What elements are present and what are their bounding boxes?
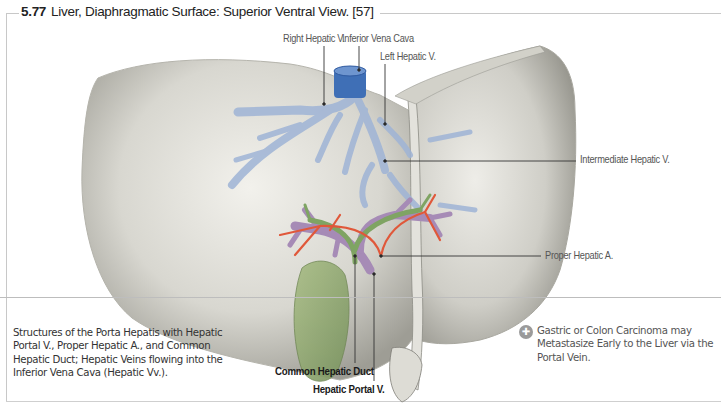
- figure-title-text: Liver, Diaphragmatic Surface: Superior V…: [51, 4, 374, 19]
- label-common-hepatic-duct: Common Hepatic Duct: [275, 365, 374, 377]
- label-hepatic-portal-v: Hepatic Portal V.: [313, 383, 385, 395]
- figure-caption: Structures of the Porta Hepatis with Hep…: [13, 326, 233, 380]
- leader-dot-intermediate-hepatic-v: [384, 160, 387, 163]
- leader-dot-proper-hepatic-a: [380, 255, 383, 258]
- gallbladder: [294, 261, 349, 381]
- figure-title: 5.77Liver, Diaphragmatic Surface: Superi…: [19, 4, 380, 19]
- inferior-vena-cava-stump: [334, 66, 366, 98]
- label-intermediate-hepatic-v: Intermediate Hepatic V.: [580, 153, 670, 165]
- leader-dot-right-hepatic-v: [323, 103, 326, 106]
- label-proper-hepatic-a: Proper Hepatic A.: [545, 249, 613, 261]
- leader-dot-left-hepatic-v: [384, 123, 387, 126]
- label-inferior-vena-cava: Inferior Vena Cava: [342, 32, 414, 44]
- clinical-note: Gastric or Colon Carcinoma may Metastasi…: [537, 324, 717, 364]
- label-left-hepatic-v: Left Hepatic V.: [380, 50, 436, 62]
- leader-dot-common-hepatic-duct: [354, 255, 357, 258]
- clinical-note-icon: ✚: [519, 325, 533, 339]
- leader-dot-inferior-vena-cava: [358, 69, 361, 72]
- section-separator: [0, 297, 721, 298]
- label-right-hepatic-v: Right Hepatic V.: [283, 32, 345, 44]
- leader-dot-hepatic-portal-v: [373, 273, 376, 276]
- figure-number: 5.77: [21, 4, 46, 19]
- ligamentum-teres: [390, 347, 422, 402]
